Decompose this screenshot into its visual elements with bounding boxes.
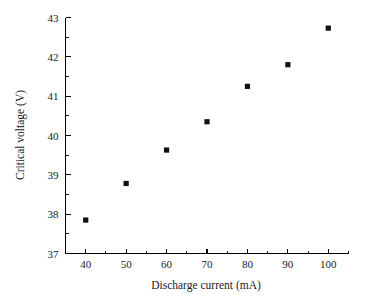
data-point-marker [83,217,88,222]
y-axis-tick-label: 43 [48,12,60,24]
y-axis-tick-label: 40 [48,130,60,142]
data-point-marker [204,119,209,124]
y-axis-tick-label: 38 [48,208,60,220]
x-axis-tick-labels: 405060708090100 [80,258,337,270]
data-point-marker [245,84,250,89]
axes-group [66,18,349,254]
data-point-marker [124,181,129,186]
y-axis-tick-label: 39 [48,169,60,181]
scatter-plot-canvas: 405060708090100 37383940414243 Discharge… [0,0,372,300]
y-axis-tick-label: 42 [48,51,59,63]
x-axis-tick-label: 70 [202,258,214,270]
y-axis-tick-label: 37 [48,248,60,260]
data-point-marker [164,147,169,152]
y-axis-tick-label: 41 [48,90,59,102]
x-axis-tick-label: 50 [121,258,133,270]
x-axis-tick-label: 60 [161,258,173,270]
x-axis-tick-label: 80 [242,258,254,270]
y-axis-tick-labels: 37383940414243 [48,12,60,260]
data-point-marker [326,26,331,31]
x-axis-tick-label: 100 [320,258,337,270]
chart-figure: 405060708090100 37383940414243 Discharge… [0,0,372,300]
y-axis-title: Critical voltage (V) [14,90,27,180]
data-points-group [83,26,331,223]
axis-ticks-group [66,18,349,254]
x-axis-tick-label: 40 [80,258,92,270]
x-axis-tick-label: 90 [282,258,294,270]
data-point-marker [285,62,290,67]
x-axis-title: Discharge current (mA) [151,279,261,292]
